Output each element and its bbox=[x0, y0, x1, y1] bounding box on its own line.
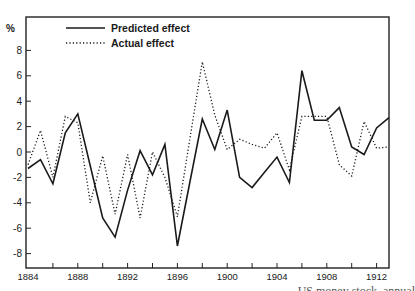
y-tick-label: 0 bbox=[16, 147, 22, 158]
x-tick-label: 1912 bbox=[366, 271, 387, 282]
y-tick-label: 2 bbox=[16, 121, 22, 132]
y-axis: -8-6-4-202468 bbox=[13, 45, 31, 259]
x-tick-label: 1900 bbox=[217, 271, 238, 282]
x-axis: 18841888189218961900190419081912 bbox=[17, 263, 387, 282]
legend-label-predicted: Predicted effect bbox=[111, 22, 190, 34]
y-tick-label: -4 bbox=[13, 197, 22, 208]
legend-label-actual: Actual effect bbox=[111, 37, 175, 49]
x-tick-label: 1884 bbox=[17, 271, 38, 282]
x-tick-label: 1908 bbox=[316, 271, 337, 282]
series-layer bbox=[28, 62, 389, 246]
x-tick-label: 1888 bbox=[67, 271, 88, 282]
y-unit-label: % bbox=[6, 23, 15, 34]
y-tick-label: -2 bbox=[13, 172, 22, 183]
y-tick-label: -6 bbox=[13, 223, 22, 234]
y-tick-label: 8 bbox=[16, 45, 22, 56]
figure-caption: US money stock, annual bbox=[30, 284, 415, 291]
series-actual-effect bbox=[28, 62, 389, 218]
x-tick-label: 1904 bbox=[266, 271, 287, 282]
legend: Predicted effect Actual effect bbox=[66, 22, 190, 49]
y-tick-label: 4 bbox=[16, 96, 22, 107]
x-tick-label: 1892 bbox=[117, 271, 138, 282]
y-tick-label: -8 bbox=[13, 248, 22, 259]
series-predicted-effect bbox=[28, 71, 389, 246]
line-chart: -8-6-4-202468 18841888189218961900190419… bbox=[0, 0, 415, 291]
x-tick-label: 1896 bbox=[167, 271, 188, 282]
y-tick-label: 6 bbox=[16, 70, 22, 81]
chart-canvas: -8-6-4-202468 18841888189218961900190419… bbox=[0, 0, 415, 291]
